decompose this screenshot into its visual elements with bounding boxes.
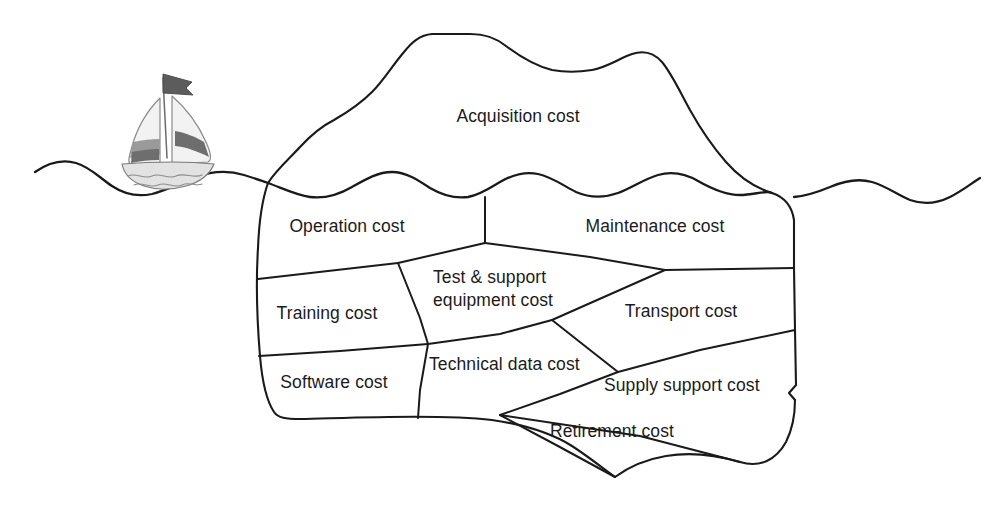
label-training-cost: Training cost	[277, 303, 378, 323]
label-retirement-cost: Retirement cost	[550, 421, 674, 441]
label-test-support-line2: equipment cost	[433, 290, 553, 310]
boat-flag	[163, 74, 193, 95]
iceberg-body-fill	[257, 34, 795, 477]
waterline-right	[794, 178, 980, 203]
label-supply-support-cost: Supply support cost	[604, 375, 760, 395]
iceberg-diagram-canvas: Acquisition cost Operation cost Maintena…	[0, 0, 998, 505]
label-maintenance-cost: Maintenance cost	[586, 216, 725, 236]
label-operation-cost: Operation cost	[289, 216, 404, 236]
label-acquisition-cost: Acquisition cost	[456, 106, 579, 126]
label-technical-data-cost: Technical data cost	[429, 354, 580, 374]
label-software-cost: Software cost	[280, 372, 387, 392]
cost-iceberg-diagram: Acquisition cost Operation cost Maintena…	[0, 0, 998, 505]
sailboat-icon	[122, 74, 214, 189]
label-transport-cost: Transport cost	[625, 301, 738, 321]
label-test-support-line1: Test & support	[433, 267, 546, 287]
